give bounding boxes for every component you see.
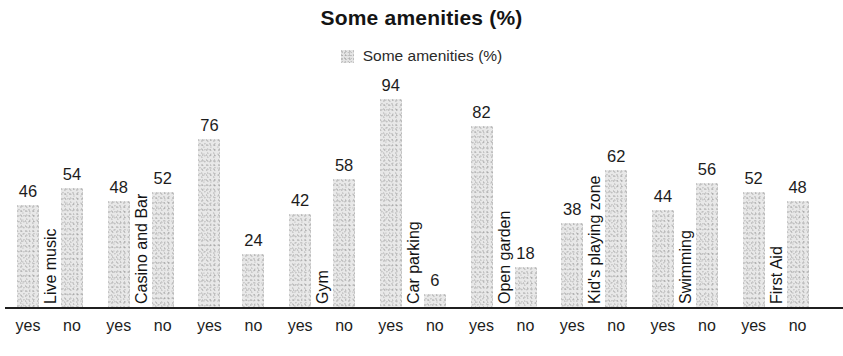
x-tick-label: no (684, 317, 730, 335)
bar[interactable] (61, 188, 83, 307)
category-label: Live music (43, 228, 59, 304)
bar-value-label: 46 (5, 182, 51, 201)
x-tick-label: no (503, 317, 549, 335)
bar[interactable] (743, 192, 765, 307)
x-axis-line (5, 307, 843, 309)
x-tick-label: no (140, 317, 186, 335)
bar[interactable] (380, 99, 402, 307)
bar[interactable] (605, 170, 627, 307)
bar-value-label: 48 (775, 178, 821, 197)
bar-value-label: 62 (593, 147, 639, 166)
bar[interactable] (515, 267, 537, 307)
chart-container: Some amenities (%) Some amenities (%) 46… (0, 0, 843, 356)
x-tick-label: yes (731, 317, 777, 335)
category-label: Open garden (497, 211, 513, 304)
bar[interactable] (424, 294, 446, 307)
bar[interactable] (471, 126, 493, 307)
bar-value-label: 54 (49, 165, 95, 184)
x-tick-label: yes (459, 317, 505, 335)
category-label: Casino and Bar (134, 194, 150, 304)
category-label: Swimming (678, 230, 694, 304)
bar-value-label: 52 (140, 169, 186, 188)
x-tick-label: no (49, 317, 95, 335)
category-label: Kid's playing zone (587, 176, 603, 304)
bar[interactable] (242, 254, 264, 307)
bar-value-label: 56 (684, 160, 730, 179)
bar[interactable] (17, 205, 39, 307)
bar-value-label: 24 (230, 231, 276, 250)
x-tick-label: yes (368, 317, 414, 335)
bar-value-label: 52 (731, 169, 777, 188)
bar[interactable] (333, 179, 355, 307)
bar-value-label: 82 (459, 103, 505, 122)
x-tick-label: no (412, 317, 458, 335)
category-label: First Aid (769, 246, 785, 304)
x-tick-label: yes (186, 317, 232, 335)
bar[interactable] (152, 192, 174, 307)
bar[interactable] (696, 183, 718, 307)
bar[interactable] (787, 201, 809, 307)
x-tick-label: yes (640, 317, 686, 335)
bar-value-label: 44 (640, 187, 686, 206)
bar[interactable] (561, 223, 583, 307)
bar-value-label: 76 (186, 116, 232, 135)
bar-value-label: 94 (368, 76, 414, 95)
bar[interactable] (198, 139, 220, 307)
plot-area: 46544852762442589468218386244565248 Live… (0, 0, 843, 356)
x-tick-label: yes (5, 317, 51, 335)
x-tick-label: no (593, 317, 639, 335)
x-tick-label: no (321, 317, 367, 335)
bar[interactable] (652, 210, 674, 307)
bar[interactable] (108, 201, 130, 307)
bar-value-label: 58 (321, 156, 367, 175)
category-label: Car parking (406, 221, 422, 304)
x-tick-label: no (230, 317, 276, 335)
bar-value-label: 42 (277, 191, 323, 210)
x-tick-label: no (775, 317, 821, 335)
x-tick-label: yes (96, 317, 142, 335)
bar[interactable] (289, 214, 311, 307)
category-label: Gym (315, 270, 331, 304)
x-tick-label: yes (549, 317, 595, 335)
x-tick-label: yes (277, 317, 323, 335)
